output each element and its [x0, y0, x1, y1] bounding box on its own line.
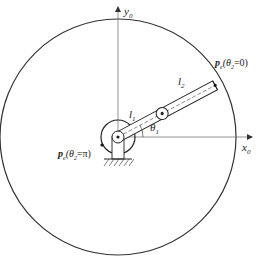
robot-arm-workspace-diagram: y0 x0 l1 l2 θ1 pe(θ2=0) pe(θ2=π) [0, 0, 259, 259]
ground-hatching [104, 159, 134, 166]
link-l2-label: l2 [178, 75, 185, 90]
joint-1-center [116, 135, 119, 138]
pe-theta2-pi-label: pe(θ2=π) [57, 148, 91, 161]
link-l1-label: l1 [129, 108, 136, 123]
x0-axis-label: x0 [241, 141, 251, 156]
pe-theta2-0-label: pe(θ2=0) [214, 57, 248, 70]
y0-axis-label: y0 [123, 5, 133, 20]
end-effector-point-theta2-pi [100, 143, 103, 146]
theta1-label: θ1 [150, 121, 159, 136]
